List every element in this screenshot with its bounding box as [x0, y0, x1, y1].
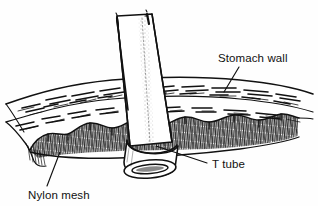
wall-left-taper [6, 122, 30, 151]
label-nylon-mesh: Nylon mesh [28, 189, 90, 201]
wall-right-taper [299, 118, 313, 119]
label-stomach-wall: Stomach wall [218, 52, 288, 64]
medical-illustration-figure: Stomach wall T tube Nylon mesh [0, 0, 318, 206]
label-t-tube: T tube [212, 158, 245, 170]
leader-nylon-mesh [47, 152, 60, 186]
t-tube [116, 10, 178, 180]
illustration-canvas: Stomach wall T tube Nylon mesh [0, 0, 318, 206]
